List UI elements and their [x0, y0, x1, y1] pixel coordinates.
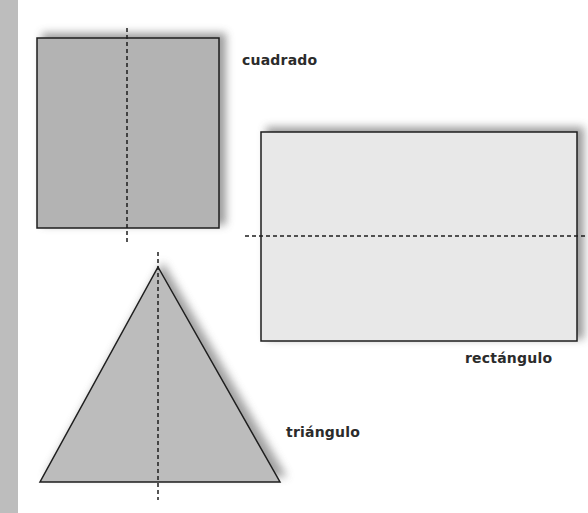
rectangle-label: rectángulo — [465, 350, 552, 366]
triangle-shape — [40, 252, 287, 500]
rectangle-shape — [245, 127, 588, 341]
square-label: cuadrado — [242, 52, 317, 68]
square-shape — [37, 28, 226, 243]
triangle-label: triángulo — [286, 424, 360, 440]
